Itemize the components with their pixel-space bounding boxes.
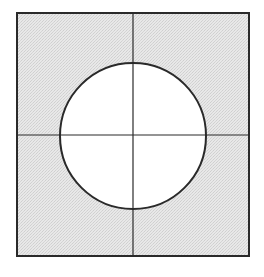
diagram-canvas bbox=[0, 0, 264, 277]
